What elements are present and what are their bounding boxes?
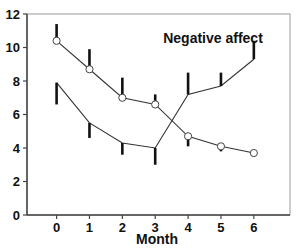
y-tick-label: 12	[6, 7, 20, 22]
x-tick-label: 5	[217, 220, 224, 235]
x-tick-label: 6	[250, 220, 257, 235]
y-tick-label: 0	[13, 208, 20, 223]
x-axis-label: Month	[136, 231, 178, 247]
y-tick-label: 8	[13, 74, 20, 89]
data-point-marker	[184, 133, 191, 140]
data-point-marker	[152, 101, 159, 108]
y-tick-label: 4	[13, 141, 21, 156]
y-tick-label: 2	[13, 174, 20, 189]
y-tick-label: 10	[6, 40, 20, 55]
negative-affect-chart: 0246810120123456 Negative affect Month	[0, 0, 302, 249]
data-point-marker	[119, 94, 126, 101]
data-point-marker	[53, 37, 60, 44]
x-tick-label: 4	[184, 220, 192, 235]
data-point-marker	[86, 66, 93, 73]
x-tick-label: 1	[86, 220, 93, 235]
data-point-marker	[250, 149, 257, 156]
x-tick-label: 0	[53, 220, 60, 235]
y-tick-label: 6	[13, 107, 20, 122]
data-point-marker	[217, 143, 224, 150]
x-tick-label: 2	[119, 220, 126, 235]
chart-title: Negative affect	[163, 30, 263, 46]
